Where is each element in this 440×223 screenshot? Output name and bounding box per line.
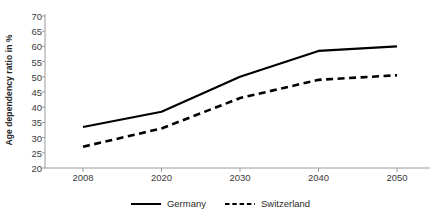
legend-key-dashed-icon xyxy=(224,199,256,209)
legend-label-germany: Germany xyxy=(167,198,206,209)
chart-legend: Germany Switzerland xyxy=(0,198,440,209)
series-line-switzerland xyxy=(83,75,397,146)
axis-tick-marks xyxy=(42,16,397,172)
data-series-lines xyxy=(83,46,397,146)
legend-entry-switzerland: Switzerland xyxy=(224,198,310,209)
axis-lines xyxy=(45,14,430,168)
legend-label-switzerland: Switzerland xyxy=(261,198,310,209)
legend-entry-germany: Germany xyxy=(130,198,206,209)
legend-key-solid-icon xyxy=(130,199,162,209)
line-chart: Age dependency ratio in % 70656055504540… xyxy=(0,0,440,223)
series-line-germany xyxy=(83,46,397,127)
plot-area xyxy=(0,0,440,223)
